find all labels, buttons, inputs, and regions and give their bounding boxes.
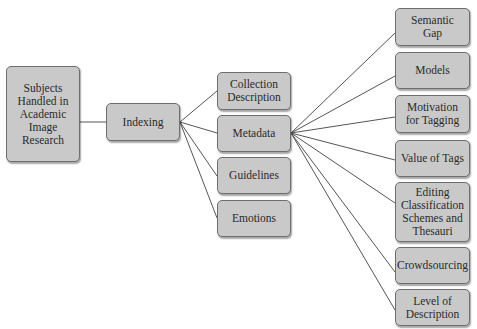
node-guidelines: Guidelines xyxy=(217,157,291,194)
node-semantic-gap-label: Semantic Gap xyxy=(411,14,454,40)
node-indexing-label: Indexing xyxy=(123,116,164,129)
node-level-of-description: Level of Description xyxy=(395,289,470,326)
node-editing-classification-label: Editing Classification Schemes and Thesa… xyxy=(401,186,464,238)
node-collection-description-label: Collection Description xyxy=(227,78,281,104)
node-emotions: Emotions xyxy=(217,200,291,237)
node-motivation-for-tagging-label: Motivation for Tagging xyxy=(406,101,460,127)
node-semantic-gap: Semantic Gap xyxy=(395,8,470,46)
node-value-of-tags-label: Value of Tags xyxy=(401,152,464,165)
node-value-of-tags: Value of Tags xyxy=(395,140,470,177)
node-metadata: Metadata xyxy=(217,115,291,152)
node-editing-classification: Editing Classification Schemes and Thesa… xyxy=(395,182,470,242)
node-motivation-for-tagging: Motivation for Tagging xyxy=(395,95,470,133)
node-models-label: Models xyxy=(415,64,450,77)
node-emotions-label: Emotions xyxy=(232,212,276,225)
node-crowdsourcing-label: Crowdsourcing xyxy=(397,259,468,272)
node-level-of-description-label: Level of Description xyxy=(406,295,460,321)
node-models: Models xyxy=(395,52,470,89)
node-collection-description: Collection Description xyxy=(217,72,291,110)
node-metadata-label: Metadata xyxy=(233,127,276,140)
node-guidelines-label: Guidelines xyxy=(229,169,279,182)
node-crowdsourcing: Crowdsourcing xyxy=(395,247,470,284)
node-root-label: Subjects Handled in Academic Image Resea… xyxy=(18,82,69,147)
node-indexing: Indexing xyxy=(106,103,180,141)
node-root: Subjects Handled in Academic Image Resea… xyxy=(6,66,80,162)
